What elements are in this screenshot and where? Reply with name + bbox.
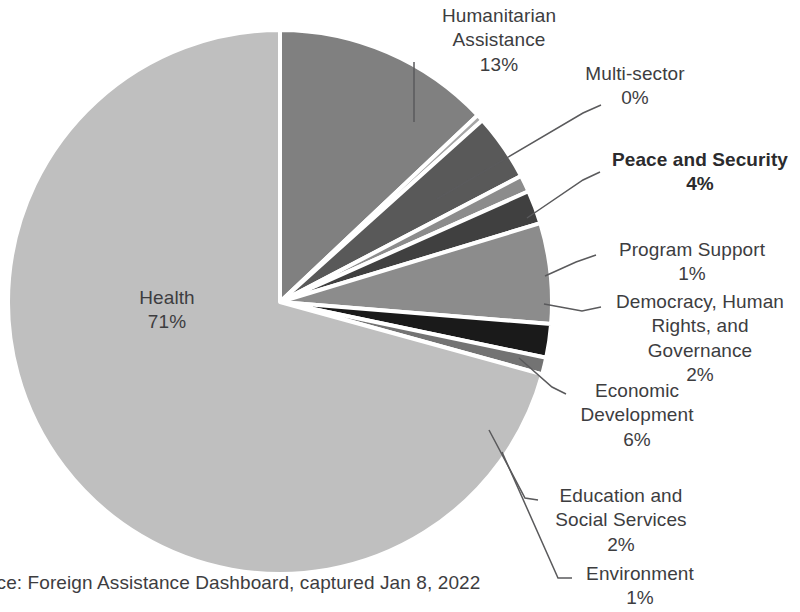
pie-slice-group (8, 30, 552, 574)
slice-percent: 4% (602, 172, 798, 196)
slice-label-line: Health (122, 286, 212, 310)
slice-label-line: Economic (570, 379, 704, 403)
chart-source-caption: Source: Foreign Assistance Dashboard, ca… (0, 572, 480, 594)
slice-label-line: Rights, and (604, 314, 796, 338)
slice-percent: 71% (122, 310, 212, 334)
slice-label-line: Peace and Security (602, 148, 798, 172)
slice-label-line: Humanitarian (424, 4, 574, 28)
slice-percent: 0% (545, 86, 725, 110)
pie-chart-figure: Humanitarian Assistance 13% Multi-sector… (0, 0, 800, 612)
slice-label-line: Democracy, Human (604, 290, 796, 314)
slice-label-line: Development (570, 403, 704, 427)
slice-label-program-support: Program Support 1% (600, 238, 784, 287)
slice-label-line: Program Support (600, 238, 784, 262)
slice-label-line: Education and (542, 484, 700, 508)
slice-label-health: Health 71% (122, 286, 212, 335)
slice-label-economic-development: Economic Development 6% (570, 379, 704, 452)
slice-label-line: Social Services (542, 508, 700, 532)
leader-line-peace (527, 172, 600, 218)
leader-line-program (545, 255, 596, 276)
slice-label-line: Governance (604, 339, 796, 363)
slice-label-line: Assistance (424, 28, 574, 52)
slice-percent: 1% (600, 262, 784, 286)
slice-percent: 6% (570, 428, 704, 452)
slice-label-line: Multi-sector (545, 62, 725, 86)
slice-label-line: Environment (576, 562, 704, 586)
slice-label-peace-and-security: Peace and Security 4% (602, 148, 798, 197)
slice-label-education-and-social-services: Education and Social Services 2% (542, 484, 700, 557)
slice-label-democracy-human-rights-and-governance: Democracy, Human Rights, and Governance … (604, 290, 796, 387)
slice-percent: 1% (576, 586, 704, 610)
slice-percent: 2% (542, 533, 700, 557)
slice-label-multi-sector: Multi-sector 0% (545, 62, 725, 111)
slice-label-environment: Environment 1% (576, 562, 704, 611)
